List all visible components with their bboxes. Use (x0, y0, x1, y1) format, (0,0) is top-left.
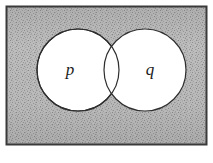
set-label-p: p (65, 60, 75, 79)
venn-diagram-canvas: p q (0, 0, 213, 163)
set-label-q: q (146, 60, 155, 79)
venn-diagram-figure: p q (0, 0, 213, 163)
